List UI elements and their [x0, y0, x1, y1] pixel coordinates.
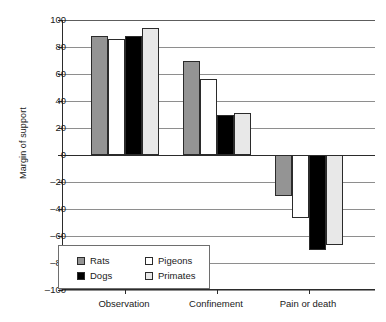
bar-pain-or-death-dogs [309, 155, 326, 250]
legend-entry-dogs: Dogs [77, 270, 145, 281]
x-tick-2 [309, 289, 310, 294]
bar-observation-rats [91, 36, 108, 155]
bar-pain-or-death-rats [275, 155, 292, 196]
bar-confinement-pigeons [200, 79, 217, 155]
legend-entry-primates: Primates [145, 270, 215, 281]
legend-label-rats: Rats [90, 255, 110, 266]
x-tick-label-2: Pain or death [248, 298, 368, 309]
gridline-100 [63, 20, 375, 21]
bar-confinement-primates [234, 113, 251, 155]
y-tick-label--20: –20 [6, 176, 66, 187]
legend-label-pigeons: Pigeons [158, 255, 192, 266]
chart-legend: RatsPigeonsDogsPrimates [58, 245, 210, 289]
y-axis-title: Margin of support [18, 68, 28, 218]
bar-chart: Margin of support 100806040200–20–40–60–… [0, 0, 386, 322]
y-tick-label-40: 40 [6, 95, 66, 106]
y-tick-label--40: –40 [6, 203, 66, 214]
y-tick-label-80: 80 [6, 41, 66, 52]
legend-swatch-dogs [77, 272, 85, 280]
y-tick-label-100: 100 [6, 14, 66, 25]
legend-swatch-primates [145, 272, 153, 280]
bar-observation-pigeons [108, 39, 125, 155]
y-tick-label-60: 60 [6, 68, 66, 79]
y-tick-label-0: 0 [6, 149, 66, 160]
x-tick-1 [217, 289, 218, 294]
gridline--100 [63, 290, 375, 291]
bar-observation-dogs [125, 36, 142, 155]
bar-confinement-rats [183, 61, 200, 156]
y-tick-label-20: 20 [6, 122, 66, 133]
legend-swatch-pigeons [145, 257, 153, 265]
legend-swatch-rats [77, 257, 85, 265]
x-tick-0 [125, 289, 126, 294]
legend-entry-pigeons: Pigeons [145, 255, 215, 266]
y-tick-label--60: –60 [6, 230, 66, 241]
bar-confinement-dogs [217, 115, 234, 156]
y-tick-label--80: –80 [6, 257, 66, 268]
bar-pain-or-death-primates [326, 155, 343, 245]
bar-observation-primates [142, 28, 159, 155]
legend-label-primates: Primates [158, 270, 195, 281]
bar-pain-or-death-pigeons [292, 155, 309, 218]
legend-label-dogs: Dogs [90, 270, 112, 281]
legend-entries: RatsPigeonsDogsPrimates [77, 253, 215, 283]
legend-entry-rats: Rats [77, 255, 145, 266]
y-tick-label--100: –100 [6, 284, 66, 295]
